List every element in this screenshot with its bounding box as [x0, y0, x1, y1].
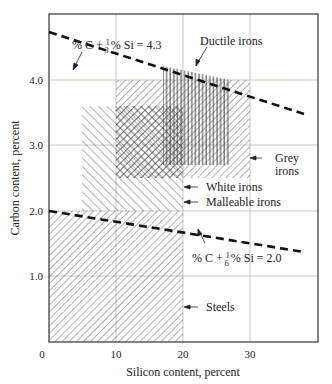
- svg-text:10: 10: [111, 348, 123, 360]
- ce-2-0-label: % C + 16% Si = 2.0: [192, 251, 282, 268]
- label-ductile-irons: Ductile irons: [200, 34, 263, 48]
- x-tick-labels: 0 10 20 30: [39, 348, 256, 360]
- svg-text:4.0: 4.0: [29, 74, 43, 86]
- region-steels: [49, 211, 183, 342]
- svg-text:1.0: 1.0: [29, 270, 43, 282]
- y-tick-labels: 4.0 3.0 2.0 1.0: [29, 74, 43, 282]
- x-axis-label: Silicon content, percent: [126, 365, 240, 379]
- carbon-silicon-cast-iron-diagram: % C + 13% Si = 4.3 % C + 16% Si = 2.0 Du…: [0, 0, 332, 384]
- y-axis-label: Carbon content, percent: [8, 120, 22, 236]
- diagram-canvas: % C + 13% Si = 4.3 % C + 16% Si = 2.0 Du…: [0, 0, 332, 384]
- label-grey-irons-1: Grey: [275, 151, 299, 165]
- svg-text:3.0: 3.0: [29, 139, 43, 151]
- svg-text:2.0: 2.0: [29, 205, 43, 217]
- label-malleable-irons: Malleable irons: [206, 195, 281, 209]
- label-steels: Steels: [206, 300, 235, 314]
- svg-text:0: 0: [39, 348, 45, 360]
- svg-text:30: 30: [245, 348, 257, 360]
- region-ductile-irons: [163, 66, 230, 165]
- svg-text:20: 20: [178, 348, 190, 360]
- label-white-irons: White irons: [206, 180, 263, 194]
- label-grey-irons-2: irons: [275, 164, 299, 178]
